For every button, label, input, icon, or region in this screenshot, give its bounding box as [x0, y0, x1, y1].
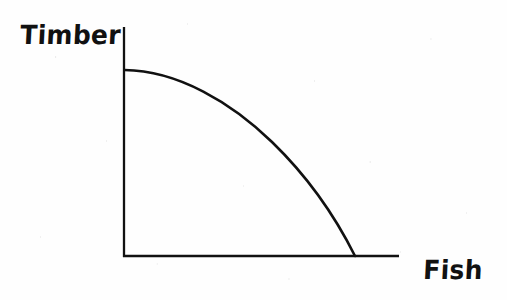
x-axis-label: Fish	[423, 257, 484, 284]
ppf-diagram-figure: Timber Fish	[0, 0, 507, 300]
ppf-curve	[125, 70, 356, 256]
y-axis-label: Timber	[20, 22, 122, 49]
